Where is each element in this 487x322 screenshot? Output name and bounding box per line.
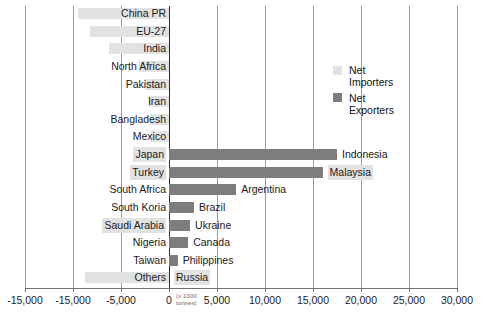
chart-legend: NetImportersNetExporters — [333, 64, 394, 120]
row-label-right: Canada — [193, 235, 230, 250]
bar-exporter — [169, 149, 337, 160]
x-tick-label: 20,000 — [345, 294, 377, 306]
legend-label-line1: Net — [349, 92, 394, 104]
x-tick-label: 30,000 — [441, 294, 473, 306]
chart-row: TurkeyMalaysia — [0, 165, 487, 183]
chart-row: Bangladesh — [0, 112, 487, 130]
chart-row: Pakistan — [0, 77, 487, 95]
row-label-right: Indonesia — [342, 147, 388, 162]
x-axis-tick — [217, 288, 218, 292]
row-label-right: Philippines — [183, 253, 234, 268]
row-label-right: Malaysia — [328, 165, 373, 180]
x-axis-tick — [265, 288, 266, 292]
chart-row: China PR — [0, 6, 487, 24]
x-axis-tick — [457, 288, 458, 292]
chart-row: India — [0, 41, 487, 59]
x-axis-tick-labels: -15,000-15,000-5,00005,00010,00015,00020… — [0, 294, 487, 310]
row-label-left: Iran — [148, 94, 166, 109]
x-tick-label: -15,000 — [7, 294, 43, 306]
chart-row: NigeriaCanada — [0, 235, 487, 253]
row-label-left: Taiwan — [133, 253, 166, 268]
bar-exporter — [169, 202, 194, 213]
bar-exporter — [169, 255, 178, 266]
row-label-right: Ukraine — [195, 218, 231, 233]
row-label-left: India — [143, 41, 166, 56]
chart-row: Saudi ArabiaUkraine — [0, 218, 487, 236]
x-axis-tick — [121, 288, 122, 292]
row-label-right: Argentina — [241, 182, 286, 197]
x-axis-tick — [361, 288, 362, 292]
bar-exporter — [169, 237, 188, 248]
row-label-left: North Africa — [111, 59, 166, 74]
legend-label-line1: Net — [349, 64, 394, 76]
chart-row: EU-27 — [0, 24, 487, 42]
row-label-left: Others — [134, 270, 166, 285]
x-axis-tick — [73, 288, 74, 292]
legend-label-line2: Exporters — [349, 104, 394, 116]
chart-row: TaiwanPhilippines — [0, 253, 487, 271]
row-label-left: Mexico — [133, 129, 166, 144]
row-label-left: Turkey — [130, 165, 166, 180]
chart-row: OthersRussia — [0, 270, 487, 288]
x-axis-line — [25, 288, 457, 289]
x-axis-units-label: (x 1000 tonnes) — [176, 292, 212, 307]
chart-row: JapanIndonesia — [0, 147, 487, 165]
row-label-left: EU-27 — [136, 24, 166, 39]
row-label-left: South Koria — [111, 200, 166, 215]
x-axis-tick — [169, 288, 170, 292]
x-tick-label: -15,000 — [55, 294, 91, 306]
row-label-left: Nigeria — [133, 235, 166, 250]
legend-item: NetImporters — [333, 64, 394, 89]
x-axis-tick — [313, 288, 314, 292]
x-tick-label: 15,000 — [297, 294, 329, 306]
row-label-left: Japan — [133, 147, 166, 162]
row-label-right: Russia — [174, 270, 210, 285]
row-label-right: Brazil — [199, 200, 225, 215]
x-axis-tick — [25, 288, 26, 292]
x-tick-label: 25,000 — [393, 294, 425, 306]
bar-rows: China PREU-27IndiaNorth AfricaPakistanIr… — [0, 6, 487, 288]
legend-item: NetExporters — [333, 92, 394, 117]
row-label-left: China PR — [121, 6, 166, 21]
x-tick-label: 0 — [166, 294, 172, 306]
chart-row: South AfricaArgentina — [0, 182, 487, 200]
bar-exporter — [169, 167, 323, 178]
bar-exporter — [169, 184, 236, 195]
chart-row: Mexico — [0, 129, 487, 147]
x-tick-label: -5,000 — [106, 294, 136, 306]
row-label-left: Saudi Arabia — [102, 218, 166, 233]
x-tick-label: 10,000 — [249, 294, 281, 306]
legend-swatch — [333, 66, 342, 75]
bar-exporter — [169, 220, 190, 231]
legend-label-line2: Importers — [349, 76, 394, 88]
chart-row: North Africa — [0, 59, 487, 77]
row-label-left: South Africa — [109, 182, 166, 197]
chart-row: South KoriaBrazil — [0, 200, 487, 218]
net-trade-bar-chart: China PREU-27IndiaNorth AfricaPakistanIr… — [0, 0, 487, 322]
row-label-left: Pakistan — [126, 77, 166, 92]
row-label-left: Bangladesh — [111, 112, 166, 127]
chart-row: Iran — [0, 94, 487, 112]
legend-swatch — [333, 93, 342, 102]
x-axis-tick — [409, 288, 410, 292]
